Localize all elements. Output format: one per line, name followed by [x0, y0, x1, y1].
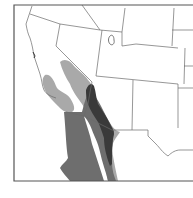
range-map [0, 0, 193, 198]
